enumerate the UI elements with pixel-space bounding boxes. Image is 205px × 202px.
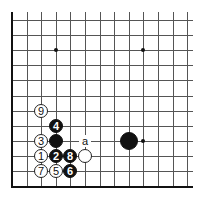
grid-line-horizontal: [12, 20, 193, 21]
grid-line-vertical: [129, 12, 130, 186]
black-stone-4: 4: [49, 119, 63, 133]
grid-line-vertical: [143, 12, 144, 186]
black-stone-8: 8: [63, 149, 77, 163]
grid-line-vertical: [158, 12, 159, 186]
white-stone-1: 1: [34, 149, 48, 163]
grid-line-vertical: [27, 12, 28, 186]
white-stone-7: 7: [34, 164, 48, 178]
board-edge-bottom: [11, 186, 193, 188]
grid-line-horizontal: [12, 96, 193, 97]
star-point: [141, 139, 145, 143]
grid-line-horizontal: [12, 35, 193, 36]
black-stone: [49, 134, 63, 148]
grid-line-vertical: [100, 12, 101, 186]
grid-line-horizontal: [12, 126, 193, 127]
star-point: [141, 48, 145, 52]
grid-line-vertical: [173, 12, 174, 186]
black-stone: [120, 132, 138, 150]
board-edge-left: [11, 12, 13, 187]
point-label-a: a: [79, 135, 91, 147]
star-point: [54, 48, 58, 52]
white-stone-3: 3: [34, 134, 48, 148]
white-stone-9: 9: [34, 104, 48, 118]
black-stone-2: 2: [49, 149, 63, 163]
go-board-diagram: a943128756: [0, 0, 205, 202]
grid-line-vertical: [187, 12, 188, 186]
black-stone-6: 6: [63, 164, 77, 178]
grid-line-horizontal: [12, 80, 193, 81]
white-stone-5: 5: [49, 164, 63, 178]
white-stone: [78, 149, 92, 163]
grid-line-horizontal: [12, 65, 193, 66]
grid-line-horizontal: [12, 50, 193, 51]
grid-line-vertical: [114, 12, 115, 186]
